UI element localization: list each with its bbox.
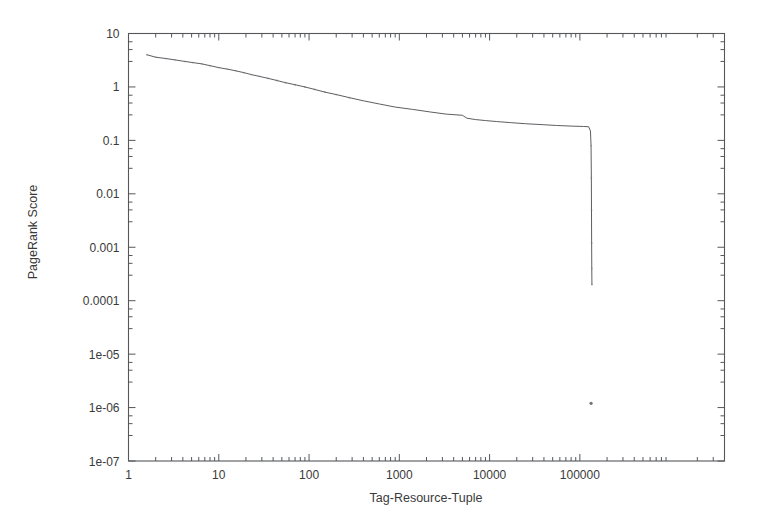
data-point [165, 58, 167, 60]
chart-figure: 1010.10.010.0010.00011e-051e-061e-07 110… [0, 0, 762, 522]
data-point [349, 97, 351, 99]
data-point [314, 88, 316, 90]
data-point [174, 59, 176, 61]
data-point [227, 68, 229, 70]
data-point [201, 63, 203, 65]
outlier-point [589, 402, 592, 405]
y-tick-label: 1e-07 [89, 455, 120, 469]
x-tick-label: 1 [125, 468, 132, 482]
data-point [192, 62, 194, 64]
data-point [285, 82, 287, 84]
y-tick-label: 1e-05 [89, 348, 120, 362]
y-tick-label: 0.0001 [83, 294, 120, 308]
data-point [155, 56, 157, 58]
data-point [590, 145, 592, 147]
y-tick-label: 0.001 [89, 241, 119, 255]
y-axis-label: PageRank Score [26, 185, 40, 280]
data-point [218, 67, 220, 69]
x-tick-label: 100000 [560, 468, 600, 482]
data-point [294, 84, 296, 86]
data-point [304, 86, 306, 88]
data-point [591, 209, 593, 211]
data-point [591, 268, 593, 270]
data-point [146, 54, 148, 56]
data-point [591, 242, 593, 244]
data-point [209, 65, 211, 67]
x-tick-label: 1000 [386, 468, 413, 482]
outlier-data-point [589, 402, 592, 405]
data-point [591, 284, 593, 286]
chart-background [0, 0, 762, 522]
x-tick-label: 100 [299, 468, 319, 482]
data-point [258, 75, 260, 77]
x-tick-label: 10000 [473, 468, 507, 482]
y-tick-label: 1e-06 [89, 401, 120, 415]
y-tick-label: 10 [106, 27, 120, 41]
data-point [251, 74, 253, 76]
pagerank-score-plot: 1010.10.010.0010.00011e-051e-061e-07 110… [0, 0, 762, 522]
data-point [243, 72, 245, 74]
data-point [324, 91, 326, 93]
y-tick-label: 1 [113, 80, 120, 94]
y-tick-label: 0.1 [103, 134, 120, 148]
y-tick-label: 0.01 [96, 187, 120, 201]
data-point [590, 177, 592, 179]
x-axis-label: Tag-Resource-Tuple [370, 491, 483, 505]
data-point [276, 80, 278, 82]
x-tick-label: 10 [212, 468, 226, 482]
data-point [335, 94, 337, 96]
data-point [235, 70, 237, 72]
data-point [267, 77, 269, 79]
data-point [184, 61, 186, 63]
